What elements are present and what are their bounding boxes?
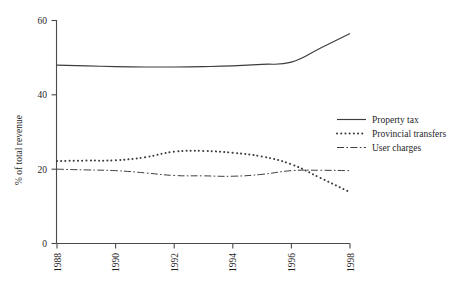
legend-label-property-tax: Property tax [372, 115, 419, 125]
legend-item-property-tax: Property tax [337, 115, 419, 125]
series-line-property-tax [57, 34, 350, 68]
legend-label-provincial-transfers: Provincial transfers [372, 129, 446, 139]
legend-item-provincial-transfers: Provincial transfers [337, 129, 446, 139]
legend-item-user-charges: User charges [337, 143, 421, 153]
y-tick-label-20: 20 [38, 165, 48, 175]
x-tick-label-1990: 1990 [111, 253, 121, 272]
x-tick-label-1998: 1998 [346, 253, 356, 272]
x-tick-label-1996: 1996 [287, 253, 297, 272]
y-axis-ticks [52, 21, 57, 244]
x-tick-label-1994: 1994 [228, 253, 238, 272]
chart-legend: Property tax Provincial transfers User c… [337, 115, 446, 153]
y-axis-title: % of total revenue [14, 115, 24, 185]
x-axis-ticks [57, 244, 350, 249]
y-tick-label-60: 60 [38, 16, 48, 26]
x-tick-label-1988: 1988 [53, 253, 63, 272]
chart-canvas: 60 40 20 0 1988 1990 1992 1994 1996 1998… [0, 0, 457, 296]
y-tick-label-0: 0 [42, 239, 47, 249]
series-line-provincial-transfers [57, 151, 350, 193]
line-chart-figure: 60 40 20 0 1988 1990 1992 1994 1996 1998… [0, 0, 457, 296]
legend-label-user-charges: User charges [372, 143, 421, 153]
y-tick-label-40: 40 [38, 90, 48, 100]
x-tick-label-1992: 1992 [170, 253, 180, 272]
